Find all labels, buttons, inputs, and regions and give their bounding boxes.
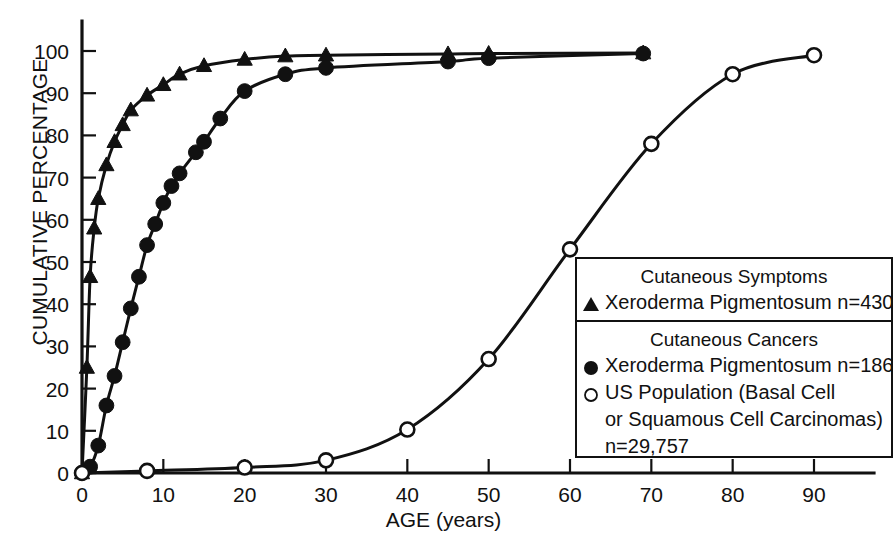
x-axis-title: AGE (years) — [0, 508, 887, 532]
x-tick-label: 70 — [640, 483, 663, 506]
marker-open-circle — [807, 48, 821, 62]
y-tick-label: 20 — [46, 378, 69, 401]
legend-heading-cutaneous-symptoms: Cutaneous Symptoms — [577, 259, 891, 289]
legend-section-cancers: Cutaneous Cancers Xeroderma Pigmentosum … — [577, 322, 891, 458]
filled-triangle-icon — [583, 289, 605, 311]
marker-filled-circle — [140, 238, 155, 253]
x-tick-label: 40 — [396, 483, 419, 506]
x-tick-label: 50 — [477, 483, 500, 506]
filled-circle-icon — [583, 352, 605, 376]
y-tick-label: 100 — [34, 40, 69, 63]
legend-label-us-population-line3: n=29,757 — [577, 433, 891, 458]
marker-filled-circle — [197, 134, 212, 149]
y-tick-label: 80 — [46, 124, 69, 147]
series-0 — [74, 45, 650, 479]
open-circle-icon — [583, 379, 605, 403]
y-tick-label: 30 — [46, 335, 69, 358]
marker-filled-triangle — [156, 77, 171, 91]
y-tick-label: 10 — [46, 420, 69, 443]
legend-row-xp-cancers: Xeroderma Pigmentosum n=186 — [577, 352, 891, 379]
marker-filled-circle — [156, 196, 171, 211]
marker-open-circle — [726, 67, 740, 81]
marker-filled-circle — [213, 111, 228, 126]
x-tick-label: 10 — [152, 483, 175, 506]
marker-open-circle — [238, 461, 252, 475]
x-tick-label: 30 — [314, 483, 337, 506]
marker-filled-circle — [164, 179, 179, 194]
legend-label-xp-cancers: Xeroderma Pigmentosum n=186 — [605, 352, 893, 379]
legend-label-us-population-line2: or Squamous Cell Carcinomas) — [577, 406, 891, 433]
marker-filled-circle — [91, 438, 106, 453]
marker-open-circle — [563, 242, 577, 256]
x-axis-title-text: AGE (years) — [386, 508, 502, 531]
marker-filled-circle — [636, 46, 651, 61]
y-tick-label: 0 — [57, 462, 69, 485]
marker-filled-circle — [123, 301, 138, 316]
marker-filled-circle — [107, 369, 122, 384]
marker-open-circle — [482, 352, 496, 366]
marker-filled-triangle — [87, 220, 102, 234]
chart-legend: Cutaneous Symptoms Xeroderma Pigmentosum… — [575, 257, 893, 458]
marker-filled-circle — [172, 166, 187, 181]
y-tick-label: 90 — [46, 82, 69, 105]
marker-filled-circle — [237, 84, 252, 99]
marker-open-circle — [319, 453, 333, 467]
y-tick-label: 70 — [46, 167, 69, 190]
marker-filled-circle — [319, 60, 334, 75]
marker-open-circle — [644, 137, 658, 151]
marker-filled-triangle — [115, 117, 130, 131]
marker-filled-circle — [132, 269, 147, 284]
marker-filled-circle — [481, 51, 496, 66]
x-tick-label: 90 — [802, 483, 825, 506]
x-tick-label: 80 — [721, 483, 744, 506]
marker-filled-triangle — [107, 134, 122, 148]
legend-row-xp-symptoms: Xeroderma Pigmentosum n=430 — [577, 289, 891, 316]
marker-filled-circle — [115, 335, 130, 350]
y-tick-label: 50 — [46, 251, 69, 274]
y-tick-label: 40 — [46, 293, 69, 316]
y-tick-label: 60 — [46, 209, 69, 232]
x-tick-label: 20 — [233, 483, 256, 506]
series-1 — [75, 46, 651, 480]
marker-filled-circle — [99, 398, 114, 413]
marker-filled-circle — [148, 217, 163, 232]
marker-filled-circle — [441, 54, 456, 69]
marker-open-circle — [140, 464, 154, 478]
legend-label-us-population: US Population (Basal Cell — [605, 379, 891, 406]
x-tick-label: 0 — [76, 483, 88, 506]
marker-open-circle — [75, 466, 89, 480]
marker-filled-triangle — [83, 269, 98, 283]
marker-filled-circle — [278, 67, 293, 82]
legend-label-xp-symptoms: Xeroderma Pigmentosum n=430 — [605, 289, 893, 316]
legend-row-us-population: US Population (Basal Cell — [577, 379, 891, 406]
legend-heading-cutaneous-cancers: Cutaneous Cancers — [577, 322, 891, 352]
x-tick-label: 60 — [558, 483, 581, 506]
marker-filled-triangle — [99, 157, 114, 171]
marker-filled-triangle — [91, 191, 106, 205]
legend-section-symptoms: Cutaneous Symptoms Xeroderma Pigmentosum… — [577, 259, 891, 316]
marker-open-circle — [400, 423, 414, 437]
marker-filled-triangle — [139, 87, 154, 101]
